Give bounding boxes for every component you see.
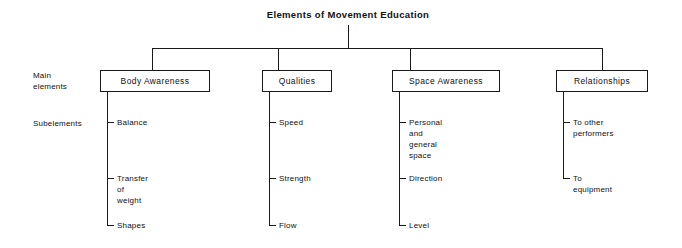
branch-spine-line: [269, 92, 270, 225]
subelement-label: To equipment: [573, 173, 612, 195]
diagram-title-text: Elements of Movement Education: [267, 9, 430, 20]
subelement-label: Strength: [279, 173, 311, 184]
subelement-tick-terminal: [563, 178, 570, 179]
subelement-label: Balance: [117, 117, 147, 128]
subelement-tick: [107, 178, 114, 179]
subelement-label: Flow: [279, 220, 297, 231]
subelement-tick: [269, 178, 276, 179]
branch-spine-line: [563, 92, 564, 178]
branch-spine-line: [399, 92, 400, 225]
subelement-label: To other performers: [573, 117, 614, 139]
subelement-label: Transfer of weight: [117, 173, 148, 206]
bus-drop-line: [602, 48, 603, 70]
movement-education-tree-diagram: Elements of Movement Education Main elem…: [0, 0, 682, 248]
subelement-tick: [399, 178, 406, 179]
subelement-tick: [399, 122, 406, 123]
bus-drop-line: [152, 48, 153, 70]
subelement-label: Speed: [279, 117, 303, 128]
bus-drop-line: [410, 48, 411, 70]
horizontal-bus-line: [152, 48, 603, 49]
subelement-tick-terminal: [107, 225, 114, 226]
bus-drop-line: [278, 48, 279, 70]
subelement-tick: [563, 122, 570, 123]
row-label-subelements: Subelements: [33, 118, 82, 129]
main-element-box[interactable]: Qualities: [262, 70, 332, 92]
branch-spine-line: [107, 92, 108, 225]
row-label-main-elements: Main elements: [33, 70, 67, 92]
main-element-box[interactable]: Relationships: [556, 70, 648, 92]
trunk-line: [348, 25, 349, 48]
subelement-tick: [107, 122, 114, 123]
diagram-title: Elements of Movement Education: [0, 9, 682, 20]
subelement-label: Direction: [409, 173, 442, 184]
subelement-tick-terminal: [269, 225, 276, 226]
subelement-label: Shapes: [117, 220, 145, 231]
subelement-label: Personal and general space: [409, 117, 442, 161]
subelement-label: Level: [409, 220, 429, 231]
main-element-box[interactable]: Body Awareness: [100, 70, 210, 92]
subelement-tick: [269, 122, 276, 123]
subelement-tick-terminal: [399, 225, 406, 226]
main-element-box[interactable]: Space Awareness: [392, 70, 500, 92]
